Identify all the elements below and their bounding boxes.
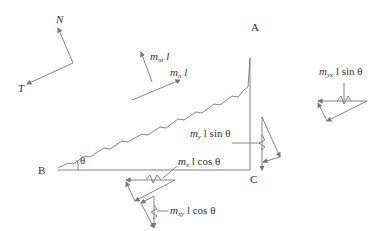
my-vector-triangle xyxy=(232,117,280,170)
my-label: my l sin θ xyxy=(190,128,230,141)
moment-equilibrium-diagram xyxy=(0,0,384,231)
mxy-label: mxy l cos θ xyxy=(170,205,215,218)
point-b-label: B xyxy=(38,165,45,176)
normal-tangent-axes xyxy=(27,28,73,84)
mn-label: mn l xyxy=(170,67,187,80)
mnt-label: mnt l xyxy=(150,51,169,64)
myx-label: myx l sin θ xyxy=(319,66,363,79)
tangent-axis-label: T xyxy=(18,83,24,94)
normal-axis-label: N xyxy=(56,14,63,25)
tangent-arrow-icon xyxy=(27,63,73,84)
mx-label: mx l cos θ xyxy=(178,156,220,169)
mx-leader-line xyxy=(163,166,177,178)
mxy-vector-triangle xyxy=(141,196,168,228)
inclined-cut-edge xyxy=(58,58,250,168)
mx-vector-triangle xyxy=(126,166,177,201)
theta-arc xyxy=(77,160,78,170)
theta-label: θ xyxy=(80,155,85,166)
point-c-label: C xyxy=(250,174,257,185)
mn-arrow-icon xyxy=(132,80,180,100)
normal-arrow-icon xyxy=(58,28,73,63)
triangle-abc xyxy=(58,58,250,170)
point-a-label: A xyxy=(251,22,259,33)
myx-vector-triangle xyxy=(318,83,367,121)
